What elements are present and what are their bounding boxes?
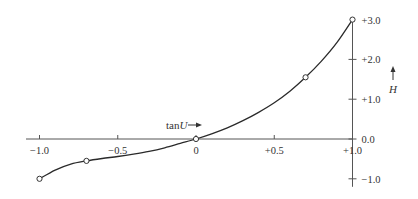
x-axis-label-text: tanU [166,119,188,131]
data-point-marker [303,75,308,80]
data-point-marker [84,158,89,163]
data-point-marker [350,17,355,22]
x-label-tan: tan [166,119,180,131]
x-axis [26,135,353,139]
y-tick-labels: −1.00.0+1.0+2.0+3.0 [362,15,381,185]
x-tick-labels: −1.0−0.50+0.5+1.0 [30,145,362,156]
y-tick-label: +2.0 [362,54,381,65]
data-point-marker [37,176,42,181]
y-tick-label: +1.0 [362,94,381,105]
data-point-marker [193,136,198,141]
x-tick-label: +0.5 [265,145,284,156]
y-axis-label-text: H [388,83,398,95]
y-tick-label: +3.0 [362,15,381,26]
x-tick-label: +1.0 [343,145,362,156]
y-label-arrowhead-icon [391,66,396,72]
x-tick-label: 0 [193,145,198,156]
y-tick-label: −1.0 [362,174,381,185]
x-tick-label: −1.0 [30,145,49,156]
y-axis [349,20,357,187]
x-axis-label: tanU [166,119,202,131]
x-label-u: U [179,119,188,131]
x-label-arrowhead-icon [196,123,202,128]
data-markers [37,17,355,181]
y-tick-label: 0.0 [362,134,375,145]
chart: −1.0−0.50+0.5+1.0 −1.00.0+1.0+2.0+3.0 ta… [0,0,418,199]
x-tick-label: −0.5 [108,145,127,156]
y-axis-label: H [388,66,398,95]
